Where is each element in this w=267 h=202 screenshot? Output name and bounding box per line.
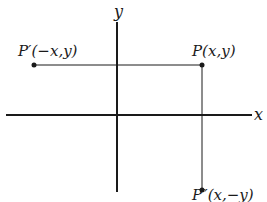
x-axis-label: x (254, 105, 263, 124)
point-p-prime (32, 63, 37, 68)
y-axis-label: y (113, 2, 124, 21)
reflection-diagram: y x P(x,y) P′(−x,y) P″(x,−y) (0, 0, 267, 202)
point-p (200, 63, 205, 68)
point-p-prime-label: P′(−x,y) (17, 42, 78, 60)
point-p-label: P(x,y) (191, 42, 236, 60)
point-p-double-prime-label: P″(x,−y) (191, 186, 254, 202)
